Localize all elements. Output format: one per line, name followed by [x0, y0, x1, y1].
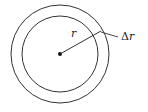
annulus-diagram: r Δr	[0, 0, 148, 112]
delta-r-leader-line	[101, 32, 118, 37]
radius-label: r	[71, 27, 77, 40]
delta-r-label: Δr	[121, 30, 135, 43]
radius-line	[60, 31, 101, 54]
diagram-canvas: r Δr	[0, 0, 148, 112]
delta-symbol: Δ	[121, 30, 129, 43]
delta-r-var: r	[129, 30, 135, 43]
